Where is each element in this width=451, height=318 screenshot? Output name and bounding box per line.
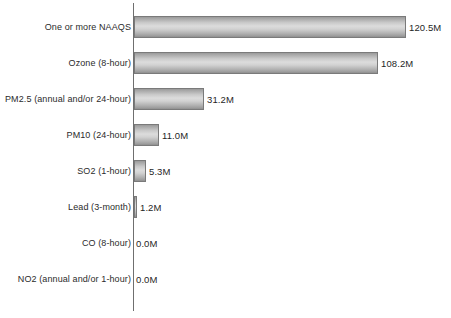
bar	[134, 52, 378, 74]
category-axis-line	[133, 3, 134, 311]
bar-row: NO2 (annual and/or 1-hour)0.0M	[0, 261, 451, 297]
bar-row: Ozone (8-hour)108.2M	[0, 45, 451, 81]
bar-row: Lead (3-month)1.2M	[0, 189, 451, 225]
bar-value-label: 0.0M	[136, 274, 158, 285]
bar-value-label: 120.5M	[409, 22, 441, 33]
bar-chart: One or more NAAQS120.5MOzone (8-hour)108…	[0, 0, 451, 318]
bar-row: PM10 (24-hour)11.0M	[0, 117, 451, 153]
bar-row: PM2.5 (annual and/or 24-hour)31.2M	[0, 81, 451, 117]
bar-value-label: 108.2M	[381, 58, 413, 69]
bar-value-label: 31.2M	[207, 94, 234, 105]
category-label: One or more NAAQS	[45, 22, 131, 32]
bar-group: 0.0M	[134, 232, 158, 254]
plot-area: One or more NAAQS120.5MOzone (8-hour)108…	[0, 0, 451, 318]
bar-value-label: 1.2M	[140, 202, 162, 213]
bar-row: One or more NAAQS120.5M	[0, 9, 451, 45]
bar	[134, 88, 204, 110]
bar-row: CO (8-hour)0.0M	[0, 225, 451, 261]
category-label: NO2 (annual and/or 1-hour)	[18, 274, 131, 284]
bar-value-label: 0.0M	[136, 238, 158, 249]
bar-group: 108.2M	[134, 52, 413, 74]
bar	[134, 124, 159, 146]
bar-group: 31.2M	[134, 88, 234, 110]
category-label: PM2.5 (annual and/or 24-hour)	[5, 94, 131, 104]
bar-group: 11.0M	[134, 124, 188, 146]
bar-row: SO2 (1-hour)5.3M	[0, 153, 451, 189]
category-label: PM10 (24-hour)	[67, 130, 131, 140]
bar-value-label: 5.3M	[149, 166, 171, 177]
bar-group: 120.5M	[134, 16, 441, 38]
bar	[134, 16, 406, 38]
bar	[134, 196, 137, 218]
category-label: Lead (3-month)	[68, 202, 131, 212]
category-label: CO (8-hour)	[82, 238, 131, 248]
bar-value-label: 11.0M	[162, 130, 188, 141]
category-label: SO2 (1-hour)	[77, 166, 131, 176]
bar-group: 5.3M	[134, 160, 171, 182]
bar	[134, 160, 146, 182]
bar-group: 1.2M	[134, 196, 162, 218]
category-label: Ozone (8-hour)	[69, 58, 131, 68]
bar-group: 0.0M	[134, 268, 158, 290]
